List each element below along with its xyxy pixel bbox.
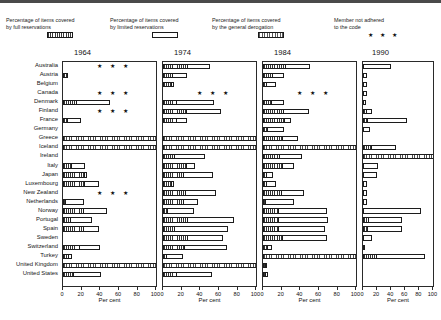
country-label: Italy (0, 161, 61, 170)
bar-segment-full-reservations (364, 218, 369, 221)
plot-area-1964: ★ ★ ★★ ★ ★★ ★ ★★ ★ ★ (62, 61, 157, 287)
bar-reservations (263, 136, 298, 141)
bar-reservations (363, 199, 367, 204)
bar-segment-full-reservations (364, 110, 367, 113)
bar-segment-full-reservations (264, 83, 267, 86)
bar-row (163, 270, 256, 279)
bar-reservations (363, 163, 378, 168)
bar-row (263, 98, 356, 107)
chart-sheet: Percentage of items covered by full rese… (0, 0, 441, 320)
bar-row (263, 189, 356, 198)
country-label: Portugal (0, 215, 61, 224)
x-axis-1990: 020406080100Per cent (362, 287, 434, 301)
x-axis-tick-label: 0 (260, 291, 263, 297)
bar-reservations (163, 199, 198, 204)
bar-reservations (263, 82, 276, 87)
bar-segment-derogation (264, 255, 356, 258)
bar-row (263, 152, 356, 161)
bar-segment-full-reservations (164, 227, 175, 230)
bar-row (63, 207, 156, 216)
bar-row (163, 252, 256, 261)
bar-general-derogation (163, 145, 256, 150)
bar-segment-full-reservations (264, 101, 272, 104)
bar-reservations (263, 235, 327, 240)
bar-reservations (263, 226, 325, 231)
legend-label-3: Member not adhered to the code (334, 17, 434, 30)
bar-segment-full-reservations (64, 200, 66, 203)
country-label: Canada (0, 88, 61, 97)
x-axis-tick-label: 80 (234, 291, 240, 297)
legend-label-1: Percentage of items covered by limited r… (110, 17, 220, 30)
bar-reservations (163, 163, 195, 168)
bar-row (263, 270, 356, 279)
bar-segment-full-reservations (264, 227, 279, 230)
bar-row (163, 189, 256, 198)
plot-area-1984: ★ ★ ★ (262, 61, 357, 287)
legend-label-2: Percentage of items covered by the gener… (212, 17, 330, 30)
country-label: Ireland (0, 151, 61, 160)
bar-segment-full-reservations (264, 182, 267, 185)
bar-reservations (63, 272, 101, 277)
bar-row (63, 270, 156, 279)
bar-row (63, 234, 156, 243)
not-adhered-stars-icon: ★ ★ ★ (297, 89, 331, 97)
x-axis-tick-label: 80 (134, 291, 140, 297)
bar-row (263, 143, 356, 152)
bar-reservations (163, 254, 183, 259)
bar-reservations (363, 145, 396, 150)
bar-row (363, 243, 433, 252)
bar-general-derogation (63, 263, 156, 268)
country-label: Austria (0, 70, 61, 79)
country-label: Switzerland (0, 242, 61, 251)
bar-segment-full-reservations (164, 65, 188, 68)
bar-reservations (263, 208, 327, 213)
bar-row (363, 71, 433, 80)
bar-row (63, 80, 156, 89)
bar-row (163, 198, 256, 207)
bar-row (263, 116, 356, 125)
bar-reservations (63, 163, 85, 168)
bar-segment-full-reservations (64, 218, 71, 221)
bar-row (263, 198, 356, 207)
bar-reservations (63, 226, 99, 231)
bar-segment-full-reservations (264, 74, 273, 77)
bar-reservations (263, 172, 273, 177)
bar-reservations (263, 181, 276, 186)
bar-row (163, 107, 256, 116)
bar-segment-derogation (164, 146, 256, 149)
bar-reservations (263, 64, 310, 69)
bar-segment-full-reservations (64, 74, 68, 77)
country-label: Australia (0, 61, 61, 70)
bar-row (363, 207, 433, 216)
bar-reservations (363, 235, 372, 240)
legend-swatch-open-icon (152, 32, 178, 38)
x-axis-tick-label: 80 (415, 291, 421, 297)
country-label: Luxembourg (0, 179, 61, 188)
bar-general-derogation (163, 136, 256, 141)
bar-reservations (363, 172, 377, 177)
bar-row (263, 107, 356, 116)
bar-reservations (263, 199, 294, 204)
bar-row (163, 216, 256, 225)
bar-segment-full-reservations (164, 236, 188, 239)
bar-row (163, 71, 256, 80)
bar-row (363, 234, 433, 243)
panel-year-label-1984: 1984 (274, 48, 291, 57)
bar-row (163, 125, 256, 134)
bar-row (163, 261, 256, 270)
panel-1984: ★ ★ ★020406080100Per cent (262, 61, 357, 301)
bar-row (363, 189, 433, 198)
bar-segment-full-reservations (264, 128, 268, 131)
bar-segment-derogation (164, 264, 256, 267)
bar-reservations (363, 73, 367, 78)
bar-reservations (63, 254, 72, 259)
not-adhered-stars-icon: ★ ★ ★ (97, 189, 131, 197)
country-label: Japan (0, 170, 61, 179)
bar-reservations (163, 118, 187, 123)
bar-segment-full-reservations (164, 101, 177, 104)
bar-reservations (363, 82, 367, 87)
bar-row (263, 234, 356, 243)
legend-swatch-derogation-icon (258, 32, 284, 38)
x-axis-title: Per cent (199, 297, 221, 303)
bar-segment-full-reservations (264, 264, 266, 267)
